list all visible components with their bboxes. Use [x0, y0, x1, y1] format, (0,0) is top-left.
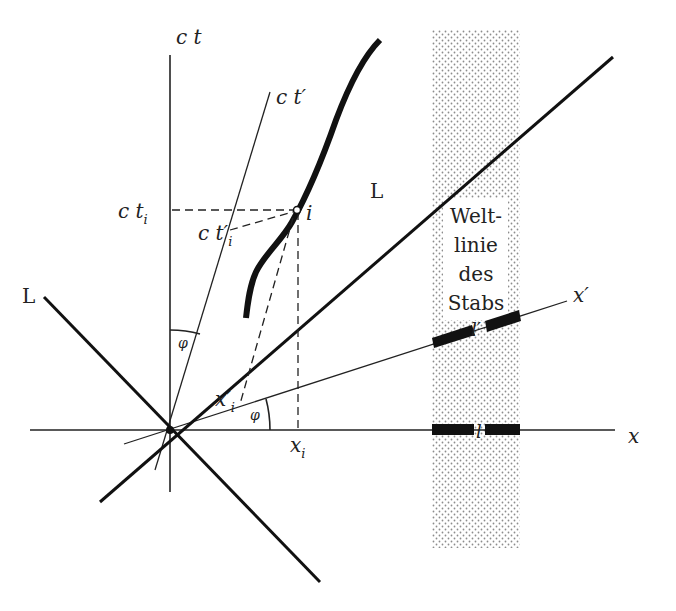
rod-segment-x-right: [485, 424, 520, 435]
angle-label-upper: φ: [178, 335, 188, 351]
angle-arc-upper: [170, 330, 200, 334]
ct-prime-i-label: c t′i: [198, 221, 232, 249]
ct-axis-label: c t: [176, 25, 203, 49]
event-label-i: i: [306, 201, 312, 225]
ct-prime-axis-label: c t′: [276, 85, 307, 109]
light-line-right: [100, 57, 613, 502]
event-i-marker: [294, 207, 301, 214]
angle-label-lower: φ: [250, 407, 260, 423]
spacetime-diagram: Welt- linie des Stabs c t c t′ x x′ L L …: [0, 0, 676, 611]
rod-label-line-2: linie: [454, 233, 498, 257]
x-prime-i-label: x′i: [215, 387, 235, 415]
ct-i-label: c ti: [118, 199, 148, 227]
angle-arc-lower: [266, 399, 270, 430]
rod-segment-x-left: [432, 424, 474, 435]
x-axis-label: x: [628, 424, 639, 448]
rod-length-label: l: [476, 421, 482, 442]
rod-label-line-3: des: [459, 262, 494, 286]
light-line-label-right: L: [370, 179, 383, 203]
x-i-label: xi: [290, 433, 305, 461]
x-prime-axis-label: x′: [573, 283, 589, 307]
rod-label-line-1: Welt-: [450, 204, 502, 228]
origin-point: [166, 426, 174, 434]
light-line-label-left: L: [22, 284, 35, 308]
rod-label-line-4: Stabs: [448, 291, 505, 315]
rod-length-primed-label: l′: [471, 319, 481, 340]
